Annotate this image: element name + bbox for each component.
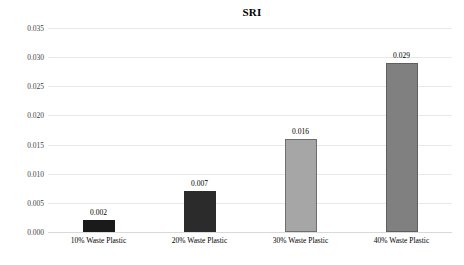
y-axis-tick-label: 0.035: [4, 24, 48, 33]
bar-value-label: 0.029: [393, 51, 410, 60]
bar[interactable]: [285, 139, 317, 232]
y-axis-tick-label: 0.000: [4, 228, 48, 237]
bar-value-label: 0.007: [191, 179, 208, 188]
x-axis-tick-label: 20% Waste Plastic: [172, 236, 228, 245]
bar[interactable]: [83, 220, 115, 232]
y-axis-tick-label: 0.020: [4, 111, 48, 120]
chart-container: SRI 0.0000.0050.0100.0150.0200.0250.0300…: [0, 0, 464, 265]
bar-value-label: 0.002: [90, 208, 107, 217]
x-axis-tick-label: 40% Waste Plastic: [374, 236, 430, 245]
x-axis: 10% Waste Plastic20% Waste Plastic30% Wa…: [48, 236, 452, 252]
bar[interactable]: [184, 191, 216, 232]
bar-slot: 0.007: [149, 28, 250, 232]
bar-value-label: 0.016: [292, 127, 309, 136]
y-axis-tick-label: 0.010: [4, 169, 48, 178]
gridline: [48, 232, 452, 233]
bar-slot: 0.016: [250, 28, 351, 232]
bar[interactable]: [386, 63, 418, 232]
y-axis-tick-label: 0.025: [4, 82, 48, 91]
x-axis-tick-label: 10% Waste Plastic: [71, 236, 127, 245]
chart-title: SRI: [0, 6, 464, 18]
y-axis-tick-label: 0.015: [4, 140, 48, 149]
bars-layer: 0.0020.0070.0160.029: [48, 28, 452, 232]
y-axis-tick-label: 0.005: [4, 198, 48, 207]
bar-slot: 0.002: [48, 28, 149, 232]
bar-slot: 0.029: [351, 28, 452, 232]
y-axis-tick-label: 0.030: [4, 53, 48, 62]
y-axis: 0.0000.0050.0100.0150.0200.0250.0300.035: [0, 28, 48, 232]
x-axis-tick-label: 30% Waste Plastic: [273, 236, 329, 245]
